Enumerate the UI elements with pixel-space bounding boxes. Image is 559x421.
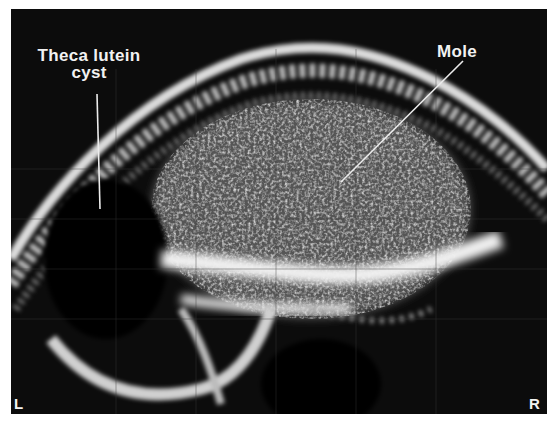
mole-label: Mole	[437, 43, 477, 60]
theca-lutein-cyst	[44, 179, 168, 339]
left-orientation-marker: L	[14, 396, 23, 411]
mole-mass	[151, 99, 471, 319]
theca-label-line2: cyst	[19, 64, 159, 81]
theca-label-line1: Theca lutein	[19, 47, 159, 64]
theca-lutein-cyst-label: Theca lutein cyst	[19, 47, 159, 81]
right-orientation-marker: R	[529, 396, 540, 411]
